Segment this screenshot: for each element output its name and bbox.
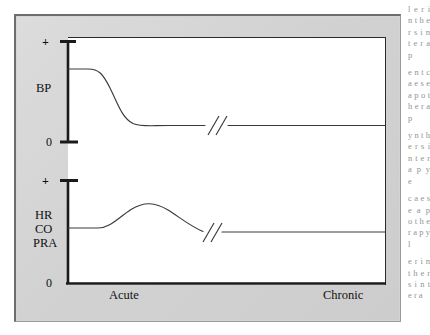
side-text-block-5: e r i n t h e r s i n t e r a — [408, 256, 430, 302]
side-text-block-3: y n t h e r s i n t e r a p y e — [408, 130, 430, 187]
upper-axis-series-label: BP — [36, 82, 51, 95]
lower-axis-series-label-hr: HR — [35, 209, 52, 222]
hr-curve-acute — [68, 204, 203, 232]
lower-axis-plus-label: + — [42, 175, 49, 187]
side-text-block-2: e n t c a e s e a p o t h e r a p — [408, 67, 430, 124]
hr-co-pra-curve-group — [68, 204, 385, 242]
lower-axis-series-label-pra: PRA — [33, 237, 57, 250]
lower-axis-zero-label: 0 — [46, 277, 52, 289]
upper-axis-plus-label: + — [42, 36, 49, 48]
lower-axis-series-label-co: CO — [35, 223, 52, 236]
bp-axis-break-icon — [208, 116, 227, 135]
x-axis-label-acute: Acute — [109, 289, 139, 302]
side-text-block-1: l e r i n t h e r s i n t e r a p — [408, 4, 430, 61]
hr-axis-break-icon — [203, 223, 222, 242]
bp-curve-acute — [68, 69, 205, 126]
upper-axis-group — [60, 41, 78, 143]
x-axis-label-chronic: Chronic — [323, 289, 363, 302]
upper-axis-zero-label: 0 — [46, 136, 52, 148]
bp-curve-group — [68, 69, 385, 135]
side-text-column: l e r i n t h e r s i n t e r a p e n t … — [408, 4, 430, 331]
side-text-block-4: c a e s e a p o t h e r a p y l — [408, 193, 430, 250]
